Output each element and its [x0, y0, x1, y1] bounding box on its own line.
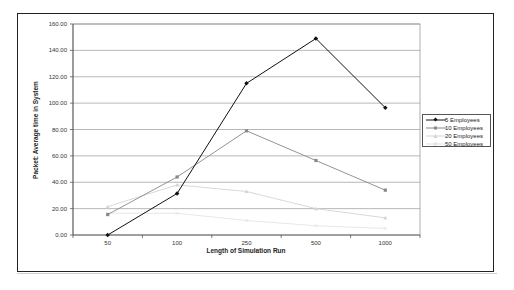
series-20-employees: [106, 183, 388, 220]
x-axis-ticks: 501002505001000: [73, 235, 420, 246]
data-point: [245, 129, 248, 132]
legend-marker-x-icon: [426, 141, 446, 147]
legend-label: 50 Employees: [445, 140, 483, 148]
y-axis-ticks: 0.0020.0040.0060.0080.00100.00120.00140.…: [49, 21, 68, 238]
legend-marker-triangle-icon: [426, 133, 446, 139]
data-point: [105, 233, 110, 238]
series-50-employees: [106, 212, 387, 230]
y-tick-label: 60.00: [52, 153, 68, 159]
legend-item-10-employees: 10 Employees: [423, 124, 492, 132]
legend-item-20-employees: 20 Employees: [423, 132, 492, 140]
x-tick-label: 1000: [379, 240, 393, 246]
y-tick-label: 80.00: [52, 127, 68, 133]
data-point: [176, 175, 179, 178]
y-tick-label: 100.00: [49, 100, 68, 106]
data-point: [384, 189, 387, 192]
legend-item-5-employees: 5 Employees: [423, 116, 492, 124]
x-axis-title: Length of Simulation Run: [206, 247, 285, 255]
series-lines: [105, 36, 387, 237]
x-tick-label: 50: [104, 240, 111, 246]
data-point: [314, 159, 317, 162]
y-tick-label: 120.00: [49, 74, 68, 80]
legend-label: 20 Employees: [445, 132, 483, 140]
y-axis-title: Packet: Average time in System: [32, 81, 40, 179]
legend: 5 Employees 10 Employees 20 Employees 50…: [422, 114, 491, 147]
y-tick-label: 160.00: [49, 21, 68, 27]
x-tick-label: 100: [172, 240, 183, 246]
legend-marker-square-icon: [426, 125, 446, 131]
y-tick-label: 140.00: [49, 47, 68, 53]
series-5-employees: [105, 36, 387, 237]
x-tick-label: 250: [241, 240, 252, 246]
y-tick-label: 20.00: [52, 206, 68, 212]
data-point: [106, 213, 109, 216]
y-tick-label: 0.00: [55, 232, 67, 238]
legend-label: 5 Employees: [445, 116, 480, 124]
legend-label: 10 Employees: [445, 124, 483, 132]
y-tick-label: 40.00: [52, 179, 68, 185]
legend-marker-diamond-icon: [426, 117, 446, 123]
series-10-employees: [106, 129, 387, 216]
legend-item-50-employees: 50 Employees: [423, 140, 492, 148]
x-tick-label: 500: [311, 240, 322, 246]
